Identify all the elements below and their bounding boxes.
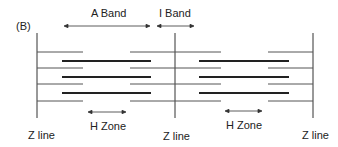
h-zone-left-label: H Zone (90, 121, 126, 132)
h-zone-right-label: H Zone (226, 120, 262, 131)
z-line-right-label: Z line (302, 130, 329, 141)
z-lines (37, 33, 313, 118)
z-line-middle-label: Z line (163, 131, 190, 142)
sarcomere-diagram (0, 0, 338, 147)
panel-label: (B) (16, 21, 31, 32)
z-line-left-label: Z line (28, 130, 55, 141)
a-band-label: A Band (91, 8, 126, 19)
h-zone-left-arrow (88, 110, 126, 113)
i-band-label: I Band (159, 8, 191, 19)
dimension-arrows (64, 24, 262, 113)
a-band-arrow (64, 24, 150, 27)
i-band-arrow (157, 24, 194, 27)
h-zone-right-arrow (225, 109, 262, 112)
